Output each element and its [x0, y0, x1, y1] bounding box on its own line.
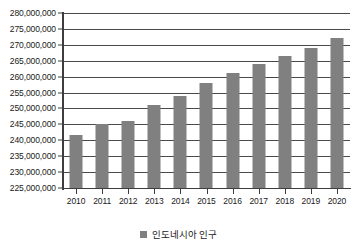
y-tick-label: 275,000,000	[10, 24, 56, 34]
bar[interactable]	[304, 48, 317, 188]
x-tick-mark	[154, 189, 155, 194]
x-tick-label: 2014	[171, 196, 190, 206]
legend-swatch-indonesia-population	[140, 231, 147, 238]
bar[interactable]	[200, 83, 213, 188]
bars-layer	[63, 13, 350, 188]
plot-wrapper: 225,000,000230,000,000235,000,000240,000…	[0, 0, 357, 214]
x-tick-mark	[233, 189, 234, 194]
y-tick-label: 245,000,000	[10, 119, 56, 129]
bar[interactable]	[70, 135, 83, 188]
x-tick-label: 2013	[145, 196, 164, 206]
bar-slot	[115, 13, 141, 188]
bar[interactable]	[278, 56, 291, 188]
x-tick-mark	[259, 189, 260, 194]
y-tick-label: 260,000,000	[10, 72, 56, 82]
x-axis: 2010201120122013201420152016201720182019…	[63, 196, 350, 212]
x-tick-label: 2015	[197, 196, 216, 206]
x-tick-mark	[76, 189, 77, 194]
bar-slot	[298, 13, 324, 188]
bar[interactable]	[122, 121, 135, 188]
x-tick-label: 2011	[93, 196, 111, 206]
x-tick-label: 2020	[328, 196, 347, 206]
chart-legend: 인도네시아 인구	[0, 224, 357, 244]
bar-slot	[220, 13, 246, 188]
y-tick-label: 280,000,000	[10, 8, 56, 18]
bar[interactable]	[330, 38, 343, 188]
x-tick-mark	[102, 189, 103, 194]
y-tick-label: 250,000,000	[10, 103, 56, 113]
x-tick-label: 2019	[302, 196, 321, 206]
x-tick-mark	[180, 189, 181, 194]
x-tick-label: 2016	[223, 196, 242, 206]
bar-slot	[272, 13, 298, 188]
y-tick-label: 255,000,000	[10, 88, 56, 98]
x-tick-label: 2017	[249, 196, 268, 206]
x-tick-mark	[337, 189, 338, 194]
bar-slot	[63, 13, 89, 188]
y-axis: 225,000,000230,000,000235,000,000240,000…	[0, 0, 63, 214]
y-tick-label: 225,000,000	[10, 183, 56, 193]
bar-slot	[193, 13, 219, 188]
x-tick-label: 2018	[276, 196, 295, 206]
bar-slot	[89, 13, 115, 188]
y-tick-label: 235,000,000	[10, 151, 56, 161]
x-axis-ticks	[63, 189, 350, 195]
bar[interactable]	[148, 105, 161, 188]
x-tick-mark	[311, 189, 312, 194]
bar[interactable]	[252, 64, 265, 188]
bar[interactable]	[226, 73, 239, 188]
x-tick-mark	[128, 189, 129, 194]
x-tick-mark	[285, 189, 286, 194]
bar[interactable]	[174, 96, 187, 188]
bar-slot	[324, 13, 350, 188]
bar-slot	[246, 13, 272, 188]
y-tick-label: 240,000,000	[10, 135, 56, 145]
x-tick-label: 2012	[119, 196, 138, 206]
y-tick-label: 230,000,000	[10, 167, 56, 177]
bar[interactable]	[96, 124, 109, 188]
y-tick-label: 270,000,000	[10, 40, 56, 50]
x-tick-label: 2010	[67, 196, 86, 206]
x-tick-mark	[207, 189, 208, 194]
y-tick-label: 265,000,000	[10, 56, 56, 66]
bar-slot	[167, 13, 193, 188]
legend-label-indonesia-population: 인도네시아 인구	[152, 227, 218, 241]
bar-chart: 225,000,000230,000,000235,000,000240,000…	[0, 0, 357, 246]
bar-slot	[141, 13, 167, 188]
